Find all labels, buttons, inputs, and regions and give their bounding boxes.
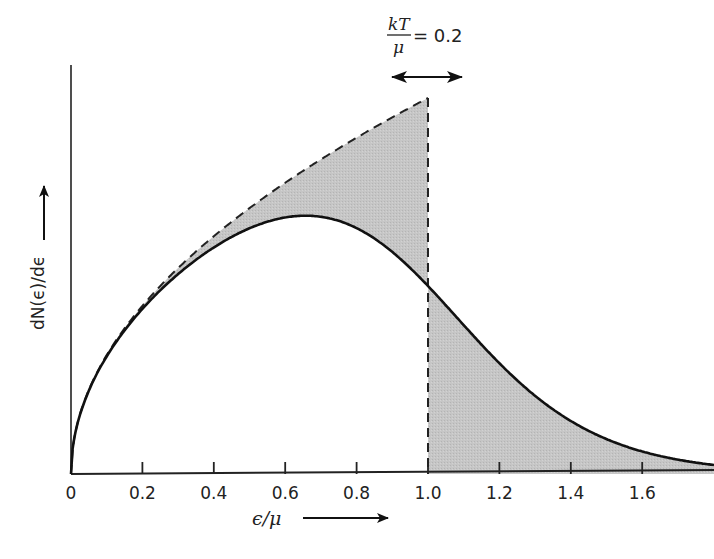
x-tick-label: 1.0 [414,483,441,503]
svg-text:μ: μ [393,37,404,57]
y-axis-label: dN(ϵ)/dϵ [28,256,48,330]
x-tick-label: 0.4 [200,483,227,503]
x-tick-label: 0.6 [272,483,299,503]
shaded-region-below-fermi [71,98,428,474]
shaded-region-above-fermi [428,286,714,474]
x-axis-label: ϵ/μ [252,507,281,529]
x-tick-label: 0.8 [343,483,370,503]
x-tick-label: 1.2 [486,483,513,503]
svg-text:= 0.2: = 0.2 [413,25,462,46]
x-tick-label: 0.2 [129,483,156,503]
x-tick-label: 0 [66,483,77,503]
chart: 00.20.40.60.81.01.21.41.6 ϵ/μ dN(ϵ)/dϵ k… [0,0,714,559]
finite-temperature-curve [71,216,714,474]
temperature-annotation: kT μ = 0.2 [387,14,462,77]
svg-text:kT: kT [388,14,411,34]
x-axis-tick-labels: 00.20.40.60.81.01.21.41.6 [66,483,656,503]
x-tick-label: 1.6 [629,483,656,503]
x-tick-label: 1.4 [557,483,584,503]
